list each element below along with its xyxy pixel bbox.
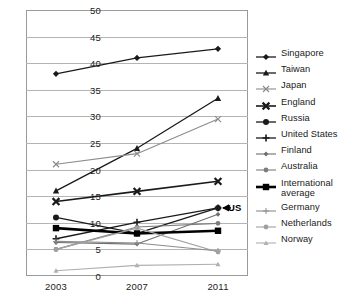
y-tick-label: 0 [81,271,101,282]
series-singapore [53,46,221,77]
y-tick-label: 20 [81,164,101,175]
legend-marker-small-triangle-icon [255,235,277,247]
y-tick-label: 50 [81,5,101,16]
series-japan [53,116,221,167]
y-tick-label: 15 [81,191,101,202]
legend-label: Finland [281,145,312,155]
chart-container: 05101520253035404550 200320072011 US Sin… [0,0,354,301]
legend-label: United States [281,129,337,139]
legend-label: Japan [281,80,307,90]
legend-label: Germany [281,202,320,212]
legend-marker-small-diamond-icon [255,146,277,158]
plot-area [26,10,248,276]
x-tick-label: 2003 [45,281,67,292]
legend-item[interactable]: Japan [255,80,354,93]
y-tick-label: 10 [81,217,101,228]
legend-item[interactable]: Netherlands [255,218,354,231]
x-tick-label: 2011 [207,281,228,292]
legend-label: Australia [281,161,318,171]
legend-label: International average [281,178,333,199]
chart-series-svg [26,10,248,276]
legend-item[interactable]: Germany [255,202,354,215]
legend-item[interactable]: International average [255,178,354,199]
legend-label: Russia [281,113,310,123]
y-tick-label: 5 [81,244,101,255]
legend-marker-triangle-icon [255,65,277,77]
legend-marker-small-circle-icon [255,219,277,231]
x-tick-label: 2007 [126,281,148,292]
us-annotation-label: US [228,202,242,213]
legend-item[interactable]: Finland [255,145,354,158]
legend-marker-x-icon [255,81,277,93]
legend-item[interactable]: Australia [255,161,354,174]
legend-marker-circle-icon [255,114,277,126]
y-tick-label: 30 [81,111,101,122]
legend-marker-plus-icon [255,130,277,142]
legend-item[interactable]: Norway [255,234,354,247]
chart-legend: SingaporeTaiwanJapanEnglandRussiaUnited … [255,48,354,250]
y-tick-label: 40 [81,58,101,69]
legend-item[interactable]: Taiwan [255,64,354,77]
legend-marker-square-icon [255,179,277,191]
legend-marker-small-circle-icon [255,162,277,174]
legend-label: Norway [281,234,313,244]
legend-item[interactable]: United States [255,129,354,142]
legend-label: Netherlands [281,218,332,228]
legend-item[interactable]: Singapore [255,48,354,61]
legend-label: Singapore [281,48,324,58]
series-taiwan [53,95,221,193]
legend-label: Taiwan [281,64,310,74]
legend-marker-plus-thin-icon [255,203,277,215]
legend-item[interactable]: Russia [255,113,354,126]
y-tick-label: 35 [81,84,101,95]
legend-label: England [281,97,315,107]
series-england [53,178,222,205]
legend-item[interactable]: England [255,97,354,110]
legend-marker-diamond-icon [255,49,277,61]
legend-marker-x-bold-icon [255,98,277,110]
y-tick-label: 25 [81,138,101,149]
series-norway [54,262,221,273]
y-tick-label: 45 [81,31,101,42]
